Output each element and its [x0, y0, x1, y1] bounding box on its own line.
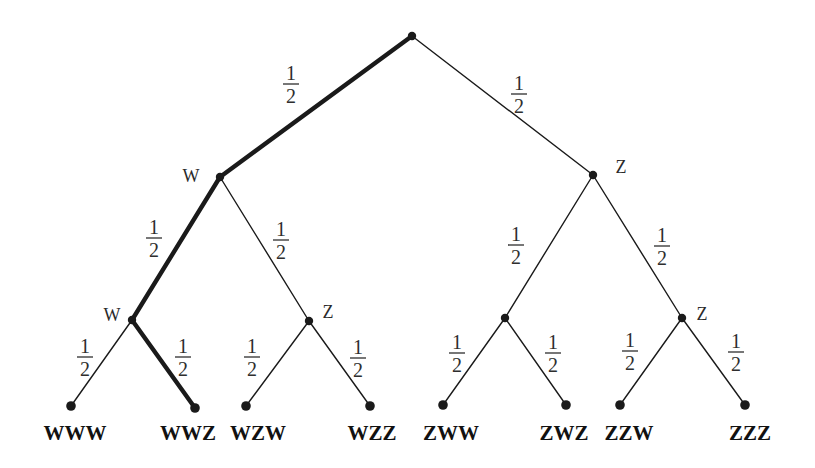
branch-probability-denominator: 2	[149, 239, 159, 261]
leaf-node-ZZW	[615, 400, 625, 410]
node-letter-zz2: Z	[697, 304, 708, 324]
leaf-node-WZW	[241, 401, 251, 411]
branch-probability-numerator: 1	[625, 329, 635, 351]
branch-probability-denominator: 2	[625, 352, 635, 374]
leaf-label-ZWW: ZWW	[423, 421, 479, 445]
leaf-node-ZWZ	[561, 400, 571, 410]
leaf-label-ZZZ: ZZZ	[729, 421, 771, 445]
tree-canvas: 1212121212121212121212121212WZWZZWWWWWZW…	[0, 0, 815, 468]
tree-node-zz2	[678, 314, 686, 322]
leaf-label-WZZ: WZZ	[347, 421, 396, 445]
leaf-label-ZWZ: ZWZ	[539, 421, 588, 445]
node-letter-z1: Z	[616, 157, 627, 177]
branch-probability-denominator: 2	[452, 354, 462, 376]
branch-probability-denominator: 2	[731, 353, 741, 375]
branch-probability-numerator: 1	[80, 335, 90, 357]
branch-probability-denominator: 2	[511, 246, 521, 268]
branch-probability-numerator: 1	[657, 224, 667, 246]
branch-probability-numerator: 1	[286, 62, 296, 84]
tree-node-z1	[589, 171, 597, 179]
tree-edge-root-w1	[220, 36, 412, 177]
branch-probability-numerator: 1	[511, 223, 521, 245]
tree-node-zw2	[501, 314, 509, 322]
leaf-node-WWZ	[190, 403, 200, 413]
tree-node-root	[408, 32, 416, 40]
tree-node-wz2	[305, 317, 313, 325]
branch-probability-numerator: 1	[731, 330, 741, 352]
leaf-node-WWW	[66, 401, 76, 411]
leaf-label-WZW: WZW	[230, 421, 286, 445]
tree-edge-w1-wz2	[220, 177, 309, 321]
branch-probability-numerator: 1	[514, 72, 524, 94]
node-letter-w1: W	[183, 166, 200, 186]
branch-probability-denominator: 2	[548, 354, 558, 376]
branch-probability-denominator: 2	[276, 241, 286, 263]
branch-probability-numerator: 1	[548, 331, 558, 353]
tree-edge-w1-ww2	[132, 177, 220, 320]
branch-probability-denominator: 2	[353, 359, 363, 381]
branch-probability-denominator: 2	[80, 358, 90, 380]
branch-probability-denominator: 2	[286, 85, 296, 107]
branch-probability-denominator: 2	[657, 247, 667, 269]
tree-node-ww2	[128, 316, 136, 324]
leaf-node-WZZ	[365, 401, 375, 411]
branch-probability-numerator: 1	[276, 218, 286, 240]
branch-probability-numerator: 1	[247, 335, 257, 357]
branch-probability-denominator: 2	[247, 358, 257, 380]
node-letter-ww2: W	[104, 305, 121, 325]
branch-probability-numerator: 1	[353, 336, 363, 358]
leaf-node-ZWW	[438, 400, 448, 410]
leaf-node-ZZZ	[740, 400, 750, 410]
leaf-label-WWW: WWW	[44, 421, 107, 445]
branch-probability-numerator: 1	[452, 331, 462, 353]
branch-probability-numerator: 1	[178, 335, 188, 357]
tree-node-w1	[216, 173, 224, 181]
probability-tree-diagram: 1212121212121212121212121212WZWZZWWWWWZW…	[0, 0, 815, 468]
leaf-label-WWZ: WWZ	[160, 421, 216, 445]
tree-edge-root-z1	[412, 36, 593, 175]
branch-probability-numerator: 1	[149, 216, 159, 238]
branch-probability-denominator: 2	[514, 95, 524, 117]
node-letter-wz2: Z	[323, 302, 334, 322]
leaf-label-ZZW: ZZW	[604, 421, 653, 445]
branch-probability-denominator: 2	[178, 358, 188, 380]
